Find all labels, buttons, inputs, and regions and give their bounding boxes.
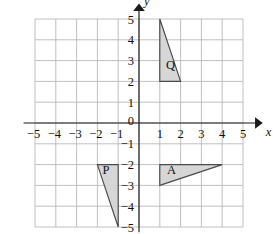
shape-label-p: P	[103, 163, 110, 177]
x-axis-name-label: x	[265, 125, 272, 139]
x-tick-label: 4	[219, 127, 226, 141]
y-axis-name-label: y	[142, 0, 150, 8]
y-tick-label: 2	[128, 75, 134, 89]
coordinate-plane-figure: −5−4−3−2−112345 54321−1−2−3−4−5 0 x y QA…	[0, 0, 273, 233]
shape-label-a: A	[167, 163, 176, 177]
y-tick-label: 3	[128, 54, 134, 68]
y-tick-label: 5	[128, 13, 134, 27]
y-tick-label: 4	[128, 33, 135, 47]
x-tick-label: 1	[157, 127, 163, 141]
y-tick-label: −5	[121, 221, 134, 234]
x-axis-tick-labels: −5−4−3−2−112345	[27, 127, 246, 141]
x-axis-arrow-icon	[255, 117, 263, 129]
x-tick-label: 5	[240, 127, 246, 141]
x-tick-label: 2	[177, 127, 183, 141]
x-tick-label: 3	[198, 127, 204, 141]
x-tick-label: −3	[68, 127, 81, 141]
y-tick-label: 1	[128, 96, 134, 110]
y-tick-label: −2	[121, 158, 134, 172]
x-tick-label: −4	[48, 127, 62, 141]
coordinate-plane-canvas: −5−4−3−2−112345 54321−1−2−3−4−5 0 x y QA…	[0, 0, 273, 233]
axes	[24, 3, 263, 232]
x-tick-label: −2	[89, 127, 102, 141]
origin-label: 0	[128, 114, 134, 128]
y-tick-label: −1	[121, 137, 134, 151]
x-tick-label: −5	[27, 127, 40, 141]
y-tick-label: −4	[121, 200, 135, 214]
y-tick-label: −3	[121, 179, 134, 193]
shape-triangle-q	[160, 19, 181, 81]
shape-label-q: Q	[166, 58, 175, 72]
